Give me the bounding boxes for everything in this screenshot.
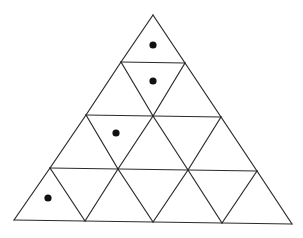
left-diagonal-line xyxy=(153,170,188,222)
left-diagonal-line xyxy=(222,171,257,223)
left-diagonal-line xyxy=(14,168,50,220)
right-diagonal-line xyxy=(188,170,222,223)
dot-marker xyxy=(149,41,156,48)
right-diagonal-line xyxy=(153,116,188,170)
left-diagonal-line xyxy=(121,15,153,62)
horizontal-line xyxy=(121,62,185,63)
dot-marker xyxy=(112,129,119,136)
right-diagonal-line xyxy=(86,115,118,169)
horizontal-line xyxy=(50,168,257,171)
left-diagonal-line xyxy=(153,63,185,116)
left-diagonal-line xyxy=(188,117,221,170)
right-diagonal-line xyxy=(257,171,292,224)
left-diagonal-line xyxy=(85,169,118,221)
right-diagonal-line xyxy=(153,15,185,63)
triangle-grid-diagram xyxy=(0,0,303,238)
dot-marker xyxy=(44,194,51,201)
marked-cells xyxy=(44,41,156,201)
right-diagonal-line xyxy=(118,169,153,222)
left-diagonal-line xyxy=(50,115,86,168)
right-diagonal-line xyxy=(121,62,153,116)
right-diagonal-line xyxy=(221,117,257,171)
right-diagonal-line xyxy=(185,63,221,117)
right-diagonal-line xyxy=(50,168,85,221)
left-diagonal-line xyxy=(118,116,153,169)
left-diagonal-line xyxy=(86,62,121,115)
dot-marker xyxy=(149,77,156,84)
